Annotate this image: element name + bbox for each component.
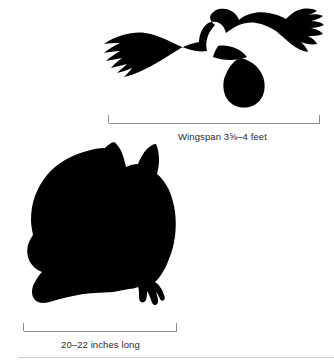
wingspan-caption: Wingspan 3⅝–4 feet xyxy=(178,131,267,143)
length-measurement-bracket xyxy=(23,322,177,334)
perched-owl-silhouette xyxy=(18,140,190,320)
owl-size-figure: Wingspan 3⅝–4 feet 20–22 inches long xyxy=(0,0,334,363)
length-caption: 20–22 inches long xyxy=(61,339,140,351)
footer-divider xyxy=(18,357,334,358)
wingspan-measurement-bracket xyxy=(108,114,320,126)
flying-owl-silhouette xyxy=(100,2,334,112)
